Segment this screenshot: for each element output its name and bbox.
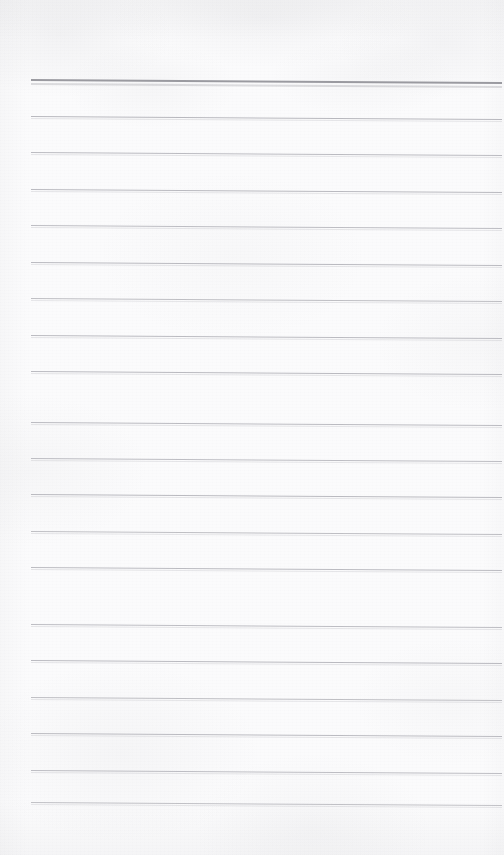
ruled-line-13 [31, 494, 502, 498]
ruled-line-9 [31, 371, 502, 375]
ruled-line-4 [31, 189, 502, 193]
ruled-lines-group [0, 0, 504, 855]
ruled-line-17 [31, 660, 502, 664]
ruled-line-5 [31, 225, 502, 229]
ruled-line-3 [31, 152, 502, 156]
scanned-page [0, 0, 504, 855]
ruled-line-11 [31, 422, 502, 426]
ruled-line-12 [31, 458, 502, 462]
ruled-line-2 [31, 116, 502, 120]
ruled-line-15 [31, 567, 502, 571]
ruled-line-7 [31, 298, 502, 302]
ruled-line-16 [31, 624, 502, 628]
header-rule-line [31, 79, 502, 84]
ruled-line-20 [31, 770, 502, 774]
ruled-line-8 [31, 335, 502, 339]
ruled-line-18 [31, 697, 502, 701]
ruled-line-19 [31, 733, 502, 737]
ruled-line-21 [31, 802, 502, 806]
ruled-line-14 [31, 531, 502, 535]
ruled-line-6 [31, 262, 502, 266]
